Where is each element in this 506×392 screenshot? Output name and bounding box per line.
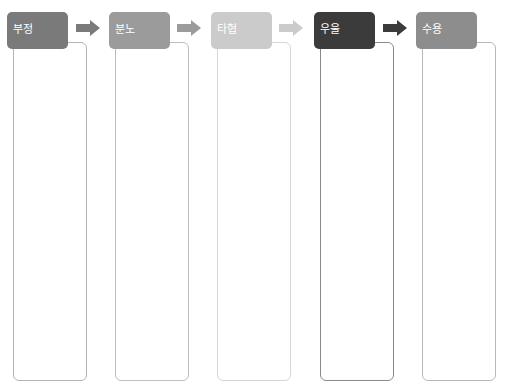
arrow-right-icon <box>279 20 303 36</box>
stage-column-depression <box>320 42 394 381</box>
stage-header-anger: 분노 <box>109 12 170 49</box>
stage-header-denial: 부정 <box>7 12 68 49</box>
stage-header-acceptance: 수용 <box>416 12 477 49</box>
stage-header-depression: 우울 <box>314 12 375 49</box>
arrow-right-icon <box>383 20 407 36</box>
stage-label: 타협 <box>217 23 237 36</box>
stage-label: 수용 <box>422 23 442 36</box>
stage-label: 분노 <box>115 23 135 36</box>
stage-column-bargaining <box>217 42 291 381</box>
stage-column-denial <box>13 42 87 381</box>
arrow-right-icon <box>177 20 201 36</box>
stage-column-acceptance <box>422 42 496 381</box>
stage-column-anger <box>115 42 189 381</box>
stage-label: 우울 <box>320 23 340 36</box>
stage-label: 부정 <box>13 23 33 36</box>
arrow-right-icon <box>76 20 100 36</box>
stage-header-bargaining: 타협 <box>211 12 272 49</box>
